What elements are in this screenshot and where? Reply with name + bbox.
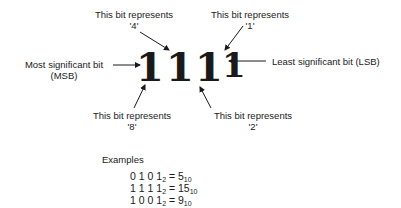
bit-msb: 1 bbox=[136, 47, 164, 87]
label-bit-8: This bit represents '8' bbox=[82, 110, 182, 132]
label-msb: Most significant bit (MSB) bbox=[14, 59, 114, 81]
label-bit-2: This bit represents '2' bbox=[203, 110, 303, 132]
label-bit-4: This bit represents '4' bbox=[84, 9, 184, 31]
bit-2: 1 bbox=[195, 47, 223, 87]
example-row: 1 0 0 12 = 910 bbox=[130, 194, 192, 208]
label-bit-1: This bit represents '1' bbox=[200, 9, 300, 31]
bit-lsb: 1 bbox=[222, 45, 246, 85]
arrows bbox=[0, 0, 401, 208]
label-lsb: Least significant bit (LSB) bbox=[272, 56, 380, 67]
examples-title: Examples bbox=[102, 154, 144, 166]
bit-4: 1 bbox=[166, 47, 194, 87]
